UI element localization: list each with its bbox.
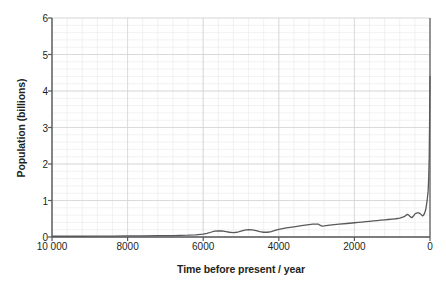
y-axis-tick-label: 1 bbox=[26, 195, 48, 206]
x-axis-title: Time before present / year bbox=[52, 263, 430, 275]
x-axis-tick-label: 10 000 bbox=[37, 241, 68, 252]
x-axis-tick-label: 2000 bbox=[343, 241, 365, 252]
y-axis-tick-label: 2 bbox=[26, 159, 48, 170]
y-axis-tick-label: 6 bbox=[26, 13, 48, 24]
x-axis-tick-label: 4000 bbox=[268, 241, 290, 252]
x-axis-tick-label: 8000 bbox=[116, 241, 138, 252]
x-axis-tick-label: 6000 bbox=[192, 241, 214, 252]
y-axis-tick-label: 3 bbox=[26, 122, 48, 133]
y-axis-tick-label: 4 bbox=[26, 86, 48, 97]
y-axis-tick-label: 5 bbox=[26, 49, 48, 60]
population-chart-figure: Population (billions) 0123456 10 0008000… bbox=[0, 0, 446, 289]
x-axis-tick-label: 0 bbox=[427, 241, 433, 252]
